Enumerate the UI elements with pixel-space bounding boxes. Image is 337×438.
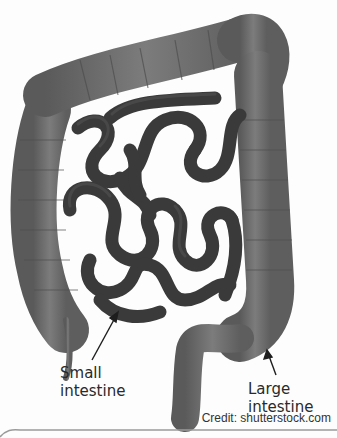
large-intestine-label-line1: Large	[248, 380, 313, 398]
small-intestine-arrow	[92, 316, 116, 360]
large-intestine-arrow	[269, 356, 276, 375]
diagram-canvas: Small intestine Large intestine Credit: …	[0, 0, 337, 438]
bottom-border-curve	[0, 428, 337, 438]
intestine-illustration	[0, 0, 337, 438]
small-intestine-label: Small intestine	[60, 364, 125, 400]
image-credit: Credit: shutterstock.com	[202, 411, 331, 425]
small-intestine	[69, 98, 240, 316]
small-intestine-label-line1: Small	[60, 364, 125, 382]
small-intestine-label-line2: intestine	[60, 382, 125, 400]
